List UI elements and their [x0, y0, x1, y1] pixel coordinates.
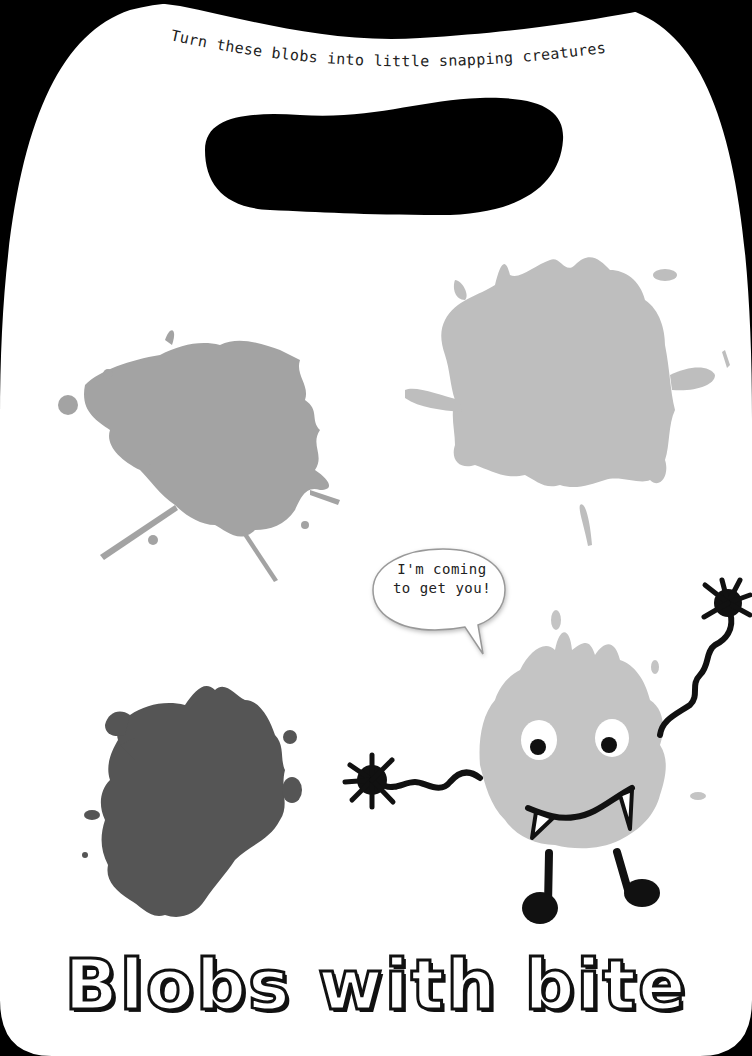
speech-line-2: to get you! — [382, 579, 502, 598]
speech-bubble-text: I'm coming to get you! — [382, 560, 502, 598]
instruction-text: Turn these blobs into little snapping cr… — [170, 22, 610, 92]
speech-line-1: I'm coming — [382, 560, 502, 579]
activity-page: Turn these blobs into little snapping cr… — [0, 0, 752, 1056]
page-title: Blobs with bite — [65, 944, 688, 1026]
page-artwork — [0, 0, 752, 1056]
hanger-hole — [205, 98, 563, 215]
page-title-container: Blobs with bite Blobs with bite — [0, 935, 752, 1039]
